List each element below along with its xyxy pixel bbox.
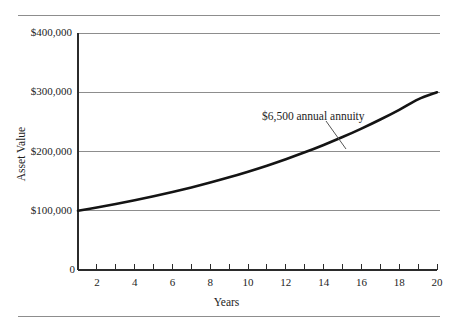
figure-container: $400,000$300,000$200,000$100,000 2468101… — [0, 0, 453, 329]
y-tick-label-400000: $400,000 — [6, 26, 72, 38]
y-tick-label-100000: $100,000 — [6, 204, 72, 216]
x-tick-label-18: 18 — [386, 276, 412, 288]
x-tick-label-16: 16 — [348, 276, 374, 288]
x-tick-label-6: 6 — [159, 276, 185, 288]
chart-plot-area — [0, 0, 453, 329]
x-tick-label-2: 2 — [84, 276, 110, 288]
x-tick-label-10: 10 — [235, 276, 261, 288]
x-tick-label-8: 8 — [197, 276, 223, 288]
y-tick-label-300000: $300,000 — [6, 85, 72, 97]
annuity-annotation-label: $6,500 annual annuity — [262, 110, 365, 122]
gridlines-group — [78, 33, 440, 211]
x-axis-ticks-group — [78, 264, 437, 270]
x-tick-label-12: 12 — [273, 276, 299, 288]
y-axis-title: Asset Value — [15, 109, 27, 199]
x-tick-label-20: 20 — [424, 276, 450, 288]
y-axis-zero-label: 0 — [55, 263, 75, 275]
x-axis-title: Years — [0, 296, 453, 308]
annotation-leader-line — [326, 121, 346, 149]
x-tick-label-14: 14 — [311, 276, 337, 288]
x-tick-label-4: 4 — [122, 276, 148, 288]
